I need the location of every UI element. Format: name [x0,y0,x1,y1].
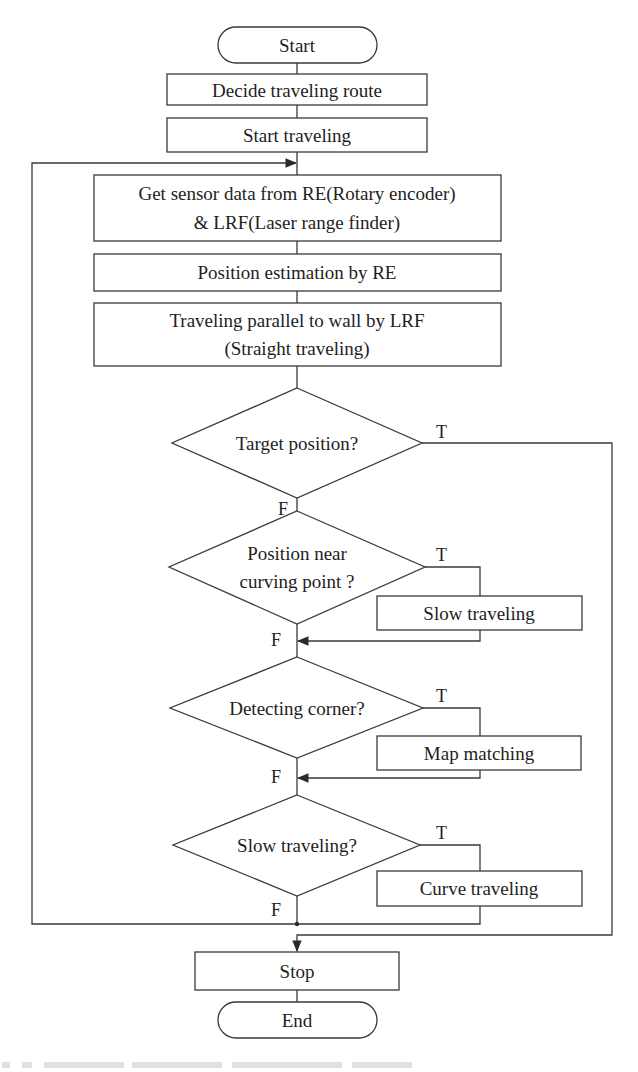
node-label-line1: Get sensor data from RE(Rotary encoder) [138,183,455,205]
node-target-position: Target position? T F [172,388,447,519]
node-label: Detecting corner? [229,698,365,719]
node-label: End [282,1010,313,1031]
node-position-estimation: Position estimation by RE [94,254,501,291]
branch-label-true: T [436,545,447,565]
node-slow-traveling: Slow traveling [377,596,582,630]
node-label: Position estimation by RE [198,262,397,283]
node-label: Curve traveling [420,878,539,899]
caption-glyph [232,1062,342,1068]
node-label: Slow traveling [423,603,535,624]
edge-curving-true [425,567,480,596]
node-label: Stop [280,961,315,982]
branch-label-false: F [271,630,281,650]
node-curve-traveling: Curve traveling [377,871,582,906]
node-end: End [218,1002,377,1038]
edge-corner-true [423,708,480,736]
branch-label-true: T [436,686,447,706]
flowchart: Start Decide traveling route Start trave… [0,0,638,1072]
caption-glyph [132,1062,222,1068]
node-label: Start [279,35,316,56]
caption-glyph [22,1062,32,1068]
node-stop: Stop [195,952,399,990]
node-label: Start traveling [243,125,352,146]
node-start-traveling: Start traveling [167,118,427,152]
node-map-matching: Map matching [377,736,581,770]
node-label-line2: curving point ? [239,571,354,592]
node-decide-route: Decide traveling route [167,74,427,105]
node-label-line2: & LRF(Laser range finder) [194,212,400,234]
branch-label-false: F [271,767,281,787]
node-start: Start [218,27,377,63]
branch-label-true: T [436,823,447,843]
branch-label-true: T [436,422,447,442]
junction-dot [295,922,299,926]
edge-slow-check-true [420,845,480,871]
node-label-line1: Position near [247,543,347,564]
edge-slow-return [298,630,480,641]
caption-glyph [352,1062,412,1068]
node-label-line2: (Straight traveling) [224,338,369,360]
branch-label-false: F [271,900,281,920]
node-get-sensor-data: Get sensor data from RE(Rotary encoder) … [94,175,501,241]
caption-glyph [2,1062,10,1068]
node-label-line1: Traveling parallel to wall by LRF [169,310,424,331]
node-label: Target position? [236,433,358,454]
node-label: Decide traveling route [212,80,382,101]
node-label: Slow traveling? [237,835,357,856]
caption-fragment [0,1058,638,1072]
caption-glyph [44,1062,124,1068]
edge-map-return [298,770,480,778]
node-traveling-parallel: Traveling parallel to wall by LRF (Strai… [94,303,501,366]
node-label: Map matching [424,743,535,764]
